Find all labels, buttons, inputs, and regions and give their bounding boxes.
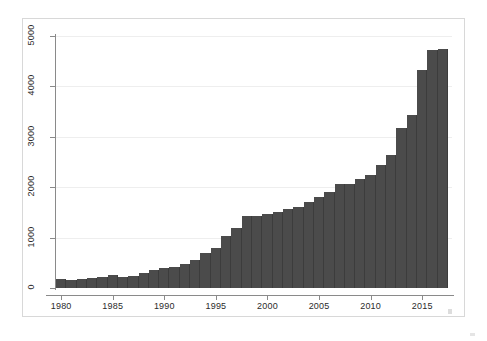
bar-2001: [273, 212, 283, 288]
scan-speck-icon: [470, 333, 475, 336]
bar-2011: [376, 165, 386, 288]
bar-2006: [324, 192, 334, 288]
bar-2007: [335, 184, 345, 288]
bar-1986: [118, 277, 128, 288]
y-axis-tick-label: 3000: [26, 119, 36, 153]
bar-1987: [128, 276, 138, 288]
bar-1981: [66, 280, 76, 288]
x-axis-tick: [267, 295, 268, 300]
x-axis-tick-label: 2015: [405, 301, 439, 311]
bar-1982: [77, 279, 87, 288]
bar-1985: [108, 275, 118, 288]
bar-2017: [438, 49, 448, 288]
x-axis-tick: [319, 295, 320, 300]
bar-2003: [293, 207, 303, 288]
bar-1993: [190, 260, 200, 288]
bar-2013: [396, 128, 406, 288]
x-axis-tick-label: 2005: [302, 301, 336, 311]
bar-1988: [139, 273, 149, 288]
bar-1997: [231, 228, 241, 288]
bar-1994: [200, 253, 210, 288]
bar-2012: [386, 155, 396, 288]
x-axis-tick: [216, 295, 217, 300]
bar-1999: [252, 216, 262, 288]
x-axis-tick-label: 2010: [354, 301, 388, 311]
x-axis-tick-label: 1980: [44, 301, 78, 311]
bar-1992: [180, 264, 190, 288]
x-axis-tick-label: 2000: [250, 301, 284, 311]
bar-2005: [314, 197, 324, 288]
x-axis-tick-label: 1995: [199, 301, 233, 311]
bar-2008: [345, 184, 355, 288]
bar-2002: [283, 209, 293, 288]
x-axis-tick-label: 1990: [147, 301, 181, 311]
x-axis-tick-label: 1985: [96, 301, 130, 311]
x-axis-line: [46, 295, 454, 296]
bar-2000: [262, 214, 272, 288]
bar-1984: [97, 277, 107, 288]
bar-1990: [159, 268, 169, 288]
plot-area: [56, 30, 448, 288]
bar-1996: [221, 236, 231, 288]
bar-1998: [242, 216, 252, 288]
y-axis-tick-label: 1000: [26, 220, 36, 254]
x-axis-tick: [422, 295, 423, 300]
bar-1991: [169, 267, 179, 288]
y-axis-tick-label: 5000: [26, 18, 36, 52]
bar-2014: [407, 115, 417, 288]
bar-2016: [427, 50, 437, 288]
y-axis-tick-label: 4000: [26, 68, 36, 102]
x-axis-tick: [164, 295, 165, 300]
bar-2015: [417, 70, 427, 288]
bar-1989: [149, 270, 159, 288]
bar-1995: [211, 248, 221, 288]
y-axis-tick-label: 2000: [26, 169, 36, 203]
chart-figure: 010002000300040005000 198019851990199520…: [0, 0, 487, 341]
x-axis-tick: [113, 295, 114, 300]
bar-1980: [56, 279, 66, 288]
y-axis-tick-label: 0: [26, 270, 36, 304]
x-axis-tick: [61, 295, 62, 300]
bar-1983: [87, 278, 97, 288]
bar-2010: [365, 175, 375, 288]
bar-2004: [304, 202, 314, 288]
y-axis-tick: [50, 288, 56, 289]
x-axis-tick: [371, 295, 372, 300]
bar-2009: [355, 179, 365, 288]
scan-speck-icon: [448, 309, 452, 314]
